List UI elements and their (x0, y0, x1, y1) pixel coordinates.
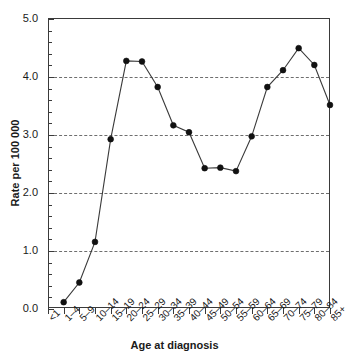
y-minor-tick (49, 216, 52, 217)
y-minor-tick (49, 123, 52, 124)
y-minor-tick (49, 263, 52, 264)
y-minor-tick (49, 205, 52, 206)
y-minor-tick (49, 228, 52, 229)
y-tick (49, 251, 54, 252)
y-minor-tick (49, 42, 52, 43)
y-minor-tick (49, 54, 52, 55)
y-minor-tick (49, 297, 52, 298)
y-minor-tick (49, 112, 52, 113)
y-tick-label: 1.0 (23, 245, 38, 256)
y-tick (49, 135, 54, 136)
y-minor-tick (49, 239, 52, 240)
gridline (49, 193, 329, 194)
y-axis-tick-labels: 0.01.02.03.04.05.0 (0, 0, 46, 359)
x-axis-title: Age at diagnosis (0, 339, 349, 351)
y-tick (49, 19, 54, 20)
y-tick (49, 193, 54, 194)
y-minor-tick (49, 286, 52, 287)
rate-by-age-line-chart: 0.01.02.03.04.05.0 Rate per 100 000 <11–… (0, 0, 349, 359)
y-minor-tick (49, 170, 52, 171)
y-tick (49, 77, 54, 78)
y-minor-tick (49, 89, 52, 90)
y-minor-tick (49, 147, 52, 148)
x-tick-label: <1 (47, 308, 62, 323)
y-minor-tick (49, 100, 52, 101)
y-tick-label: 3.0 (23, 129, 38, 140)
y-tick-label: 5.0 (23, 13, 38, 24)
y-minor-tick (49, 181, 52, 182)
y-minor-tick (49, 158, 52, 159)
y-minor-tick (49, 65, 52, 66)
y-tick-label: 4.0 (23, 71, 38, 82)
plot-area (48, 18, 330, 308)
y-tick-label: 2.0 (23, 187, 38, 198)
gridline (49, 251, 329, 252)
y-minor-tick (49, 274, 52, 275)
y-tick-label: 0.0 (23, 303, 38, 314)
gridline (49, 77, 329, 78)
y-minor-tick (49, 31, 52, 32)
gridline (49, 135, 329, 136)
y-axis-title: Rate per 100 000 (9, 83, 21, 243)
